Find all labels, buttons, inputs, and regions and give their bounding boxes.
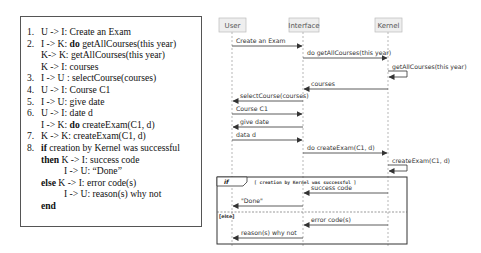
participant-kernel: Kernel: [375, 18, 402, 32]
sequence-diagram: User Interface Kernel: [0, 0, 481, 253]
self-message-arrow: [388, 71, 407, 77]
message-label: give date: [240, 118, 269, 126]
message-label: error code(s): [311, 216, 351, 223]
message-label: courses: [311, 80, 335, 87]
message-label: getAllCourses(this year): [392, 63, 467, 71]
participant-user: User: [219, 18, 246, 32]
message-label: success code: [311, 184, 352, 191]
self-message-arrow: [388, 165, 407, 171]
message-label: data d: [236, 131, 256, 138]
fragment-else-label: [else]: [219, 214, 234, 219]
svg-text:Interface: Interface: [288, 22, 319, 30]
message-label: selectCourse(courses): [240, 92, 309, 99]
message-label: "Done": [241, 197, 263, 204]
fragment-guard: [ creation by Kernel was successful ]: [254, 180, 356, 185]
svg-text:User: User: [225, 22, 241, 30]
message-label: reason(s) why not: [241, 229, 297, 237]
message-label: do getAllCourses(this year): [307, 49, 391, 57]
message-label: Create an Exam: [236, 37, 286, 44]
message-label: Course C1: [236, 105, 268, 112]
message-label: do createExam(C1, d): [307, 144, 375, 151]
message-label: createExam(C1, d): [392, 157, 450, 164]
svg-text:Kernel: Kernel: [378, 22, 400, 30]
participant-interface: Interface: [288, 18, 319, 32]
